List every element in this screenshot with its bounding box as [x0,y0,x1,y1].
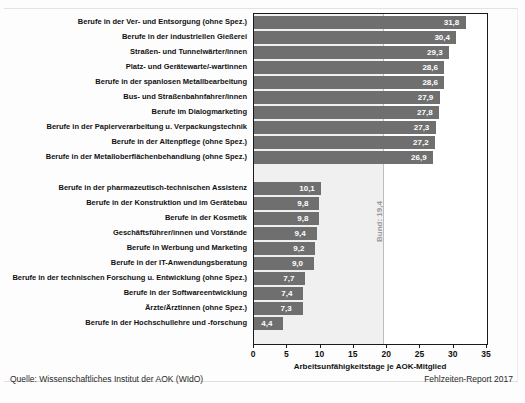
bar-value-label: 7,3 [281,304,292,313]
x-axis-tick [286,344,287,348]
bar-row: 9,2 [254,242,487,255]
category-label-column: Berufe in der Ver- und Entsorgung (ohne … [0,13,250,343]
category-label: Berufe in der pharmazeutisch-technischen… [0,181,250,194]
bar-value-label: 27,2 [413,138,429,147]
category-label: Bus- und Straßenbahnfahrer/innen [0,90,250,103]
bar-row: 9,4 [254,227,487,240]
bar [254,197,319,210]
category-label: Geschäftsführer/innen und Vorstände [0,226,250,239]
bar-value-label: 31,8 [444,18,460,27]
bar-row: 7,3 [254,302,487,315]
x-axis-tick-label: 15 [348,349,357,359]
x-axis-tick-label: 20 [381,349,390,359]
bar-row: 7,7 [254,272,487,285]
x-axis-tick [320,344,321,348]
bar [254,91,440,104]
bar [254,242,315,255]
bar [254,272,305,285]
x-axis-tick [453,344,454,348]
bar-value-label: 26,9 [411,153,427,162]
report-note: Fehlzeiten-Report 2017 [424,374,513,384]
x-axis-tick-label: 10 [315,349,324,359]
category-label: Straßen- und Tunnelwärter/innen [0,45,250,58]
bar-value-label: 7,4 [281,289,292,298]
bar [254,227,317,240]
bar [254,257,314,270]
bar-value-label: 10,1 [299,184,315,193]
category-label: Berufe in der technischen Forschung u. E… [0,271,250,284]
x-axis-tick-label: 25 [415,349,424,359]
right-divider [517,8,518,382]
bar-row: 31,8 [254,16,487,29]
bar [254,121,436,134]
bar-value-label: 4,4 [261,319,272,328]
bar-row: 10,1 [254,182,487,195]
bar-value-label: 28,6 [422,63,438,72]
bar [254,16,466,29]
bar-row: 9,0 [254,257,487,270]
x-axis-tick [386,344,387,348]
bar-row: 27,3 [254,121,487,134]
bar-row: 27,8 [254,106,487,119]
plot-area: Bund: 19,4 31,830,429,328,628,627,927,82… [253,13,488,345]
bar-row: 7,4 [254,287,487,300]
x-axis-title: Arbeitsunfähigkeitstage je AOK-Mitglied [253,362,487,371]
bar [254,61,444,74]
category-label: Berufe in der Softwareentwicklung [0,286,250,299]
bar-row: 26,9 [254,151,487,164]
category-label: Berufe in der Hochschullehre und -forsch… [0,316,250,329]
bar [254,31,456,44]
bar-row: 29,3 [254,46,487,59]
bar-value-label: 9,2 [293,244,304,253]
bar-value-label: 9,8 [297,199,308,208]
category-label: Berufe in der Altenpflege (ohne Spez.) [0,135,250,148]
x-axis-tick [253,344,254,348]
category-label: Berufe in der Metalloberflächenbehandlun… [0,150,250,163]
source-note: Quelle: Wissenschaftliches Institut der … [10,374,203,384]
category-label: Berufe in der IT-Anwendungsberatung [0,256,250,269]
category-label: Platz- und Gerätewarte/-wartinnen [0,60,250,73]
chart-figure: Berufe in der Ver- und Entsorgung (ohne … [0,0,525,403]
category-label: Berufe in Werbung und Marketing [0,241,250,254]
category-label: Berufe im Dialogmarketing [0,105,250,118]
bar-row: 4,4 [254,317,487,330]
bar [254,287,303,300]
bar-value-label: 7,7 [283,274,294,283]
x-axis-tick-label: 30 [448,349,457,359]
bar-row: 28,6 [254,61,487,74]
bar-value-label: 9,4 [295,229,306,238]
category-label: Berufe in der Konstruktion und im Geräte… [0,196,250,209]
bar-row: 27,2 [254,136,487,149]
bar-row: 30,4 [254,31,487,44]
bar-row: 28,6 [254,76,487,89]
bar [254,106,439,119]
bar-value-label: 27,3 [414,123,430,132]
bar-row: 9,8 [254,197,487,210]
bar [254,212,319,225]
x-axis-tick [486,344,487,348]
x-axis-tick-label: 5 [284,349,289,359]
x-axis-tick [353,344,354,348]
bar-value-label: 30,4 [434,33,450,42]
bar [254,136,435,149]
bar-value-label: 27,8 [417,108,433,117]
bar-value-label: 27,9 [418,93,434,102]
bar-row: 27,9 [254,91,487,104]
category-label: Berufe in der Ver- und Entsorgung (ohne … [0,15,250,28]
bar [254,46,449,59]
category-label: Ärzte/Ärztinnen (ohne Spez.) [0,301,250,314]
bar-rows: 31,830,429,328,628,627,927,827,327,226,9… [254,14,487,344]
bar-value-label: 9,0 [292,259,303,268]
x-axis-tick [419,344,420,348]
bar [254,76,444,89]
category-label: Berufe in der Kosmetik [0,211,250,224]
category-label: Berufe in der spanlosen Metallbearbeitun… [0,75,250,88]
bar-value-label: 28,6 [422,78,438,87]
bar-value-label: 9,8 [297,214,308,223]
bar-row: 9,8 [254,212,487,225]
top-divider [4,8,518,9]
category-label: Berufe in der industriellen Gießerei [0,30,250,43]
bar [254,151,433,164]
bar-value-label: 29,3 [427,48,443,57]
x-axis-tick-label: 0 [251,349,256,359]
